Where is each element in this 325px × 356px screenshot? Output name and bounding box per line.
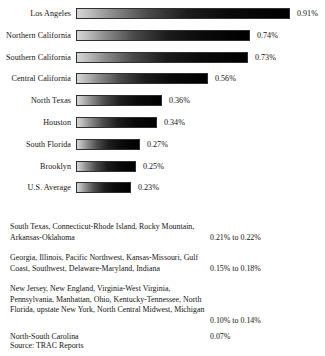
chart-row: Brooklyn0.25% (0, 160, 325, 173)
bar-track (76, 8, 290, 19)
chart-row: Houston0.34% (0, 116, 325, 129)
bar-value-label: 0.27% (147, 138, 168, 151)
footnote-value: 0.15% to 0.18% (210, 264, 261, 275)
category-label: South Florida (0, 138, 71, 151)
bar-value-label: 0.91% (297, 7, 318, 20)
bar-track (76, 161, 136, 172)
chart-row: South Florida0.27% (0, 138, 325, 151)
bar-value-label: 0.73% (255, 51, 276, 64)
footnote-value: 0.21% to 0.22% (210, 233, 261, 244)
source-credit: Source: TRAC Reports (10, 341, 84, 352)
bar-track (76, 139, 140, 150)
chart-row: Northern California0.74% (0, 29, 325, 42)
bar (76, 182, 131, 193)
bar (76, 52, 248, 63)
category-label: Houston (0, 116, 71, 129)
bar-value-label: 0.56% (215, 72, 236, 85)
bar (76, 161, 136, 172)
footnote-districts: South Texas, Connecticut-Rhode Island, R… (10, 222, 208, 243)
category-label: Southern California (0, 51, 71, 64)
chart-row: North Texas0.36% (0, 94, 325, 107)
category-label: Northern California (0, 29, 71, 42)
footnote-item: Georgia, Illinois, Pacific Northwest, Ka… (0, 253, 325, 274)
footnote-districts: Georgia, Illinois, Pacific Northwest, Ka… (10, 253, 208, 274)
footnote-districts: New Jersey, New England, Virginia-West V… (10, 284, 208, 316)
bar-track (76, 73, 208, 84)
footnote-value: 0.10% to 0.14% (210, 316, 261, 327)
bar-chart: Los Angeles0.91%Northern California0.74%… (0, 0, 325, 205)
bar (76, 73, 208, 84)
chart-row: Southern California0.73% (0, 51, 325, 64)
bar-track (76, 182, 131, 193)
bar (76, 139, 140, 150)
footnote-item: New Jersey, New England, Virginia-West V… (0, 284, 325, 316)
bar-value-label: 0.34% (164, 116, 185, 129)
bar-track (76, 95, 162, 106)
bar-value-label: 0.74% (257, 29, 278, 42)
chart-row: U.S. Average0.23% (0, 181, 325, 194)
bar (76, 8, 290, 19)
bar-track (76, 30, 250, 41)
category-label: North Texas (0, 94, 71, 107)
bar (76, 30, 250, 41)
bar-value-label: 0.25% (143, 160, 164, 173)
category-label: U.S. Average (0, 181, 71, 194)
bar (76, 117, 157, 128)
bar-track (76, 52, 248, 63)
footnote-item: South Texas, Connecticut-Rhode Island, R… (0, 222, 325, 243)
category-label: Central California (0, 72, 71, 85)
category-label: Los Angeles (0, 7, 71, 20)
bar-track (76, 117, 157, 128)
bar-value-label: 0.36% (169, 94, 190, 107)
bar-value-label: 0.23% (138, 181, 159, 194)
bar (76, 95, 162, 106)
chart-row: Los Angeles0.91% (0, 7, 325, 20)
chart-page: Los Angeles0.91%Northern California0.74%… (0, 0, 325, 356)
footnote-value: 0.07% (210, 332, 230, 343)
chart-row: Central California0.56% (0, 72, 325, 85)
category-label: Brooklyn (0, 160, 71, 173)
